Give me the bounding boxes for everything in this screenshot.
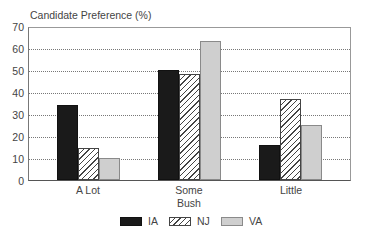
bar-little-nj bbox=[280, 99, 301, 180]
y-tick-0: 0 bbox=[0, 175, 24, 187]
x-label-some: Some bbox=[149, 184, 229, 196]
y-tick-40: 40 bbox=[0, 87, 24, 99]
y-tick-10: 10 bbox=[0, 153, 24, 165]
chart-title: Candidate Preference (%) bbox=[30, 9, 151, 21]
y-tick-60: 60 bbox=[0, 43, 24, 55]
legend-label-va: VA bbox=[249, 215, 262, 227]
x-label-a-lot: A Lot bbox=[48, 184, 128, 196]
bar-little-ia bbox=[259, 145, 280, 180]
legend-label-ia: IA bbox=[148, 215, 158, 227]
y-tick-20: 20 bbox=[0, 131, 24, 143]
bar-a-lot-va bbox=[99, 158, 120, 180]
legend-swatch-va bbox=[221, 217, 243, 226]
x-label-little: Little bbox=[251, 184, 331, 196]
bar-some-nj bbox=[179, 74, 200, 180]
plot-area bbox=[28, 27, 351, 181]
legend-label-nj: NJ bbox=[197, 215, 210, 227]
y-tick-50: 50 bbox=[0, 65, 24, 77]
x-axis-title: Bush bbox=[149, 197, 229, 209]
y-tick-70: 70 bbox=[0, 21, 24, 33]
legend-swatch-nj bbox=[169, 217, 191, 226]
bar-a-lot-ia bbox=[57, 105, 78, 180]
bar-some-va bbox=[200, 41, 221, 180]
bar-some-ia bbox=[158, 70, 179, 180]
legend-swatch-ia bbox=[120, 217, 142, 226]
y-tick-30: 30 bbox=[0, 109, 24, 121]
gridline-60 bbox=[29, 49, 350, 50]
bar-little-va bbox=[301, 125, 322, 180]
gridline-50 bbox=[29, 71, 350, 72]
bar-a-lot-nj bbox=[78, 148, 99, 180]
